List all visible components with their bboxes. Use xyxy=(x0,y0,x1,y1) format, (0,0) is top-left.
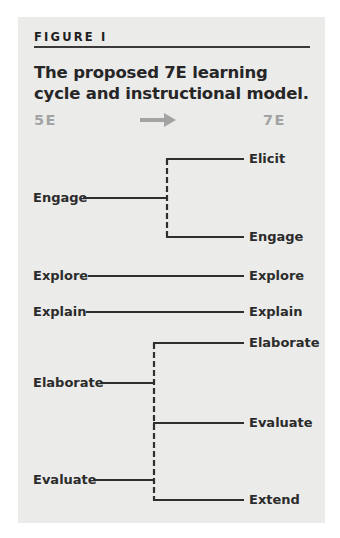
left-phase-explain: Explain xyxy=(33,304,87,320)
left-phase-explore: Explore xyxy=(33,268,88,284)
left-phase-engage: Engage xyxy=(33,190,87,206)
right-phase-extend: Extend xyxy=(249,492,300,508)
right-phase-explain: Explain xyxy=(249,304,303,320)
right-phase-explore: Explore xyxy=(249,268,304,284)
right-phase-evaluate: Evaluate xyxy=(249,415,313,431)
right-phase-elicit: Elicit xyxy=(249,151,285,167)
left-phase-evaluate: Evaluate xyxy=(33,472,97,488)
right-phase-elaborate: Elaborate xyxy=(249,335,320,351)
right-phase-engage: Engage xyxy=(249,229,303,245)
left-phase-elaborate: Elaborate xyxy=(33,375,104,391)
